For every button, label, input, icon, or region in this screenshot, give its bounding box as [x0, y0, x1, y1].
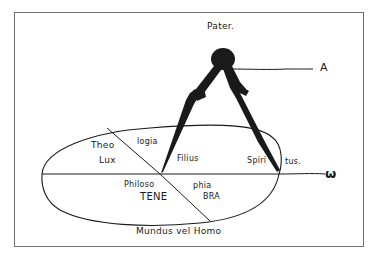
label-philoso: Philoso	[124, 181, 154, 189]
label-omega: ω	[325, 167, 337, 180]
label-logia: logia	[137, 138, 158, 146]
diagram-canvas: Pater. A ω Theo Lux logia Filius Spiri t…	[0, 0, 378, 263]
label-tene: TENE	[140, 192, 167, 202]
diagram-drawing	[0, 0, 378, 263]
label-tus: tus.	[285, 158, 301, 166]
label-pater: Pater.	[207, 22, 234, 31]
label-theo: Theo	[91, 141, 114, 150]
label-bra: BRA	[203, 193, 220, 201]
label-phia: phia	[193, 182, 211, 190]
frame-border	[15, 13, 364, 247]
label-mundus-vel-homo: Mundus vel Homo	[136, 227, 221, 236]
label-alpha: A	[320, 62, 328, 73]
label-lux: Lux	[99, 156, 116, 165]
label-spiri: Spiri	[247, 157, 266, 165]
label-filius: Filius	[177, 155, 199, 163]
